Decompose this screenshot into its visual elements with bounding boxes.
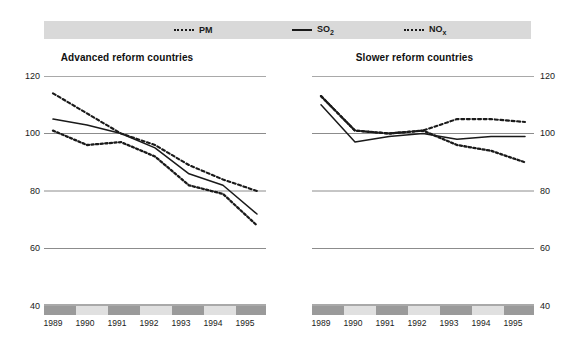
year-label-1990: 1990 <box>69 318 101 328</box>
y-tick-80-right: 80 <box>540 186 566 196</box>
y-tick-100-left: 100 <box>14 128 40 138</box>
y-tick-40-left: 40 <box>14 301 40 311</box>
year-label-1989: 1989 <box>305 318 337 328</box>
year-band-1995 <box>236 306 266 315</box>
plot-area-slower <box>312 76 534 306</box>
year-label-1994: 1994 <box>197 318 229 328</box>
legend-label-pm: PM <box>199 25 213 35</box>
dashed-line-swatch-icon <box>404 26 424 34</box>
year-label-1990: 1990 <box>337 318 369 328</box>
series-pm-slower <box>321 96 525 162</box>
legend-item-nox: NOx <box>404 24 446 36</box>
series-nox-advanced <box>53 93 257 191</box>
year-label-1991: 1991 <box>369 318 401 328</box>
year-band-1994 <box>472 306 504 315</box>
legend-item-pm: PM <box>174 25 213 35</box>
panel-title-advanced: Advanced reform countries <box>0 52 272 63</box>
year-labels-advanced: 1989 1990 1991 1992 1993 1994 1995 <box>44 318 266 332</box>
year-label-1992: 1992 <box>133 318 165 328</box>
year-label-1994: 1994 <box>465 318 497 328</box>
y-tick-40-right: 40 <box>540 301 566 311</box>
legend-label-so2: SO2 <box>317 24 334 36</box>
year-band-1992 <box>408 306 440 315</box>
solid-line-swatch-icon <box>292 26 312 34</box>
panel-advanced-reform: Advanced reform countries 120 100 80 60 … <box>0 52 290 352</box>
legend-item-so2: SO2 <box>292 24 334 36</box>
y-tick-100-right: 100 <box>540 128 566 138</box>
y-tick-60-left: 60 <box>14 243 40 253</box>
year-band-1994 <box>204 306 236 315</box>
gridlines-advanced <box>44 76 266 305</box>
plot-svg-slower <box>312 76 534 306</box>
year-label-1995: 1995 <box>229 318 261 328</box>
y-tick-120-right: 120 <box>540 71 566 81</box>
year-band-1989 <box>312 306 344 315</box>
legend: PM SO2 NOx <box>44 21 531 39</box>
year-band-1990 <box>76 306 108 315</box>
series-so2-slower <box>321 105 525 142</box>
year-label-1993: 1993 <box>165 318 197 328</box>
panel-title-slower: Slower reform countries <box>270 52 559 63</box>
year-band-1991 <box>108 306 140 315</box>
year-band-axis-slower <box>312 306 534 315</box>
year-band-1993 <box>172 306 204 315</box>
year-label-1993: 1993 <box>433 318 465 328</box>
y-tick-60-right: 60 <box>540 243 566 253</box>
panel-slower-reform: Slower reform countries 120 100 80 60 40 <box>290 52 579 352</box>
year-band-1991 <box>376 306 408 315</box>
year-band-axis-advanced <box>44 306 266 315</box>
y-tick-80-left: 80 <box>14 186 40 196</box>
year-band-1993 <box>440 306 472 315</box>
year-label-1991: 1991 <box>101 318 133 328</box>
year-label-1995: 1995 <box>497 318 529 328</box>
year-band-1995 <box>504 306 534 315</box>
year-labels-slower: 1989 1990 1991 1992 1993 1994 1995 <box>312 318 534 332</box>
plot-area-advanced <box>44 76 266 306</box>
year-band-1992 <box>140 306 172 315</box>
year-band-1989 <box>44 306 76 315</box>
legend-label-nox: NOx <box>429 24 446 36</box>
year-label-1992: 1992 <box>401 318 433 328</box>
year-label-1989: 1989 <box>37 318 69 328</box>
year-band-1990 <box>344 306 376 315</box>
dotted-line-swatch-icon <box>174 26 194 34</box>
plot-svg-advanced <box>44 76 266 306</box>
chart-page: PM SO2 NOx Advanced reform countries 120… <box>0 0 579 358</box>
gridlines-slower <box>312 76 534 305</box>
y-tick-120-left: 120 <box>14 71 40 81</box>
